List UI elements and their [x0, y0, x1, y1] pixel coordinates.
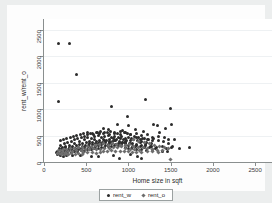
y-axis-tick-label: 1000 — [36, 109, 42, 122]
data-point — [114, 149, 118, 153]
data-point — [151, 139, 154, 142]
data-point — [169, 158, 173, 162]
data-point — [164, 127, 167, 130]
plot-area: 0500100015002000250005001000150020002500 — [43, 19, 272, 163]
data-point — [119, 130, 122, 133]
y-axis-tick-label: 2000 — [36, 56, 42, 69]
circle-marker-icon — [107, 194, 110, 197]
data-point — [112, 154, 115, 157]
x-axis-tick-label: 1000 — [122, 167, 135, 173]
data-point — [90, 137, 93, 140]
legend-label: rent_w — [113, 192, 131, 198]
x-axis-tick-label: 0 — [42, 167, 45, 173]
data-point — [68, 42, 71, 45]
gridline — [44, 30, 272, 31]
x-axis-tick-label: 2000 — [206, 167, 219, 173]
chart-screenshot: 0500100015002000250005001000150020002500… — [0, 0, 272, 203]
data-point — [102, 127, 105, 130]
data-point — [188, 146, 191, 149]
gridline — [44, 83, 272, 84]
data-point — [110, 105, 113, 108]
data-point — [140, 150, 144, 154]
data-point — [109, 130, 112, 133]
y-axis-title: rent_w/rent_o — [19, 19, 28, 163]
x-axis-tick — [171, 162, 172, 166]
data-point — [173, 138, 176, 141]
data-point — [156, 150, 160, 154]
diamond-marker-icon — [141, 193, 145, 197]
legend-item-rent-w[interactable]: rent_w — [107, 192, 131, 198]
data-point — [97, 155, 100, 158]
data-point — [157, 135, 160, 138]
data-point — [142, 130, 145, 133]
data-point — [156, 124, 159, 127]
legend-label: rent_o — [148, 192, 165, 198]
data-point — [163, 136, 166, 139]
data-point — [75, 73, 78, 76]
y-axis-tick-label: 0 — [36, 162, 42, 165]
x-axis-tick — [213, 162, 214, 166]
data-point — [57, 100, 60, 103]
data-point — [157, 139, 160, 142]
gridline — [44, 109, 272, 110]
chart-canvas: 0500100015002000250005001000150020002500… — [7, 5, 265, 191]
x-axis-tick — [44, 162, 45, 166]
y-axis-title-text: rent_w/rent_o — [20, 71, 27, 111]
data-point — [86, 136, 89, 139]
data-point — [136, 155, 139, 158]
data-point — [131, 138, 135, 142]
gridline — [44, 56, 272, 57]
data-point — [126, 115, 129, 118]
data-point — [76, 137, 79, 140]
y-axis-tick-label: 2500 — [36, 30, 42, 43]
legend-item-rent-o[interactable]: rent_o — [142, 192, 165, 198]
data-point — [118, 157, 121, 160]
x-axis-tick — [255, 162, 256, 166]
data-point — [167, 138, 170, 141]
data-point — [70, 140, 73, 143]
data-point — [116, 123, 119, 126]
x-axis-tick — [128, 162, 129, 166]
data-point — [140, 157, 143, 160]
data-point — [170, 123, 173, 126]
data-point — [167, 142, 170, 145]
chart-legend[interactable]: rent_w rent_o — [99, 189, 173, 201]
data-point — [145, 150, 149, 154]
data-point — [152, 123, 155, 126]
data-point — [146, 133, 149, 136]
data-point — [65, 137, 68, 140]
data-point — [171, 145, 174, 148]
x-axis-tick — [86, 162, 87, 166]
x-axis-tick-label: 1500 — [164, 167, 177, 173]
data-point — [90, 155, 93, 158]
x-axis-tick-label: 2500 — [248, 167, 261, 173]
data-point — [57, 42, 60, 45]
data-point — [150, 149, 154, 153]
data-point — [158, 131, 161, 134]
x-axis-tick-label: 500 — [81, 167, 91, 173]
data-point — [162, 140, 165, 143]
data-point — [137, 136, 140, 139]
y-axis-tick-label: 500 — [36, 136, 42, 146]
data-point — [144, 98, 147, 101]
data-point — [178, 147, 181, 150]
data-point — [134, 128, 137, 131]
data-point — [115, 138, 118, 141]
x-axis-title: Home size in sqft — [43, 177, 272, 184]
data-point — [127, 124, 130, 127]
y-axis-tick-label: 1500 — [36, 83, 42, 96]
